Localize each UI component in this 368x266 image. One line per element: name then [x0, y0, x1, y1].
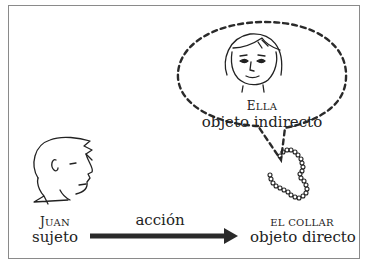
- thought-bubble: [178, 22, 346, 160]
- action-arrow: [90, 228, 238, 244]
- direct-object-name: EL COLLAR: [262, 217, 342, 228]
- necklace-icon: [268, 148, 309, 200]
- subject-name: JUAN: [30, 215, 80, 229]
- subject-role: sujeto: [25, 229, 85, 245]
- man-profile-icon: [34, 137, 92, 204]
- action-label: acción: [130, 212, 190, 228]
- woman-face-icon: [225, 34, 281, 92]
- direct-object-role: objeto directo: [250, 229, 354, 245]
- indirect-object-role: objeto indirecto: [196, 114, 328, 130]
- indirect-object-name: ELLA: [232, 99, 292, 113]
